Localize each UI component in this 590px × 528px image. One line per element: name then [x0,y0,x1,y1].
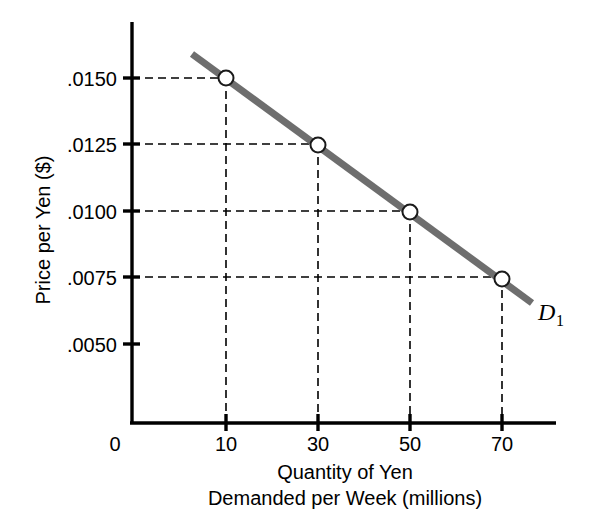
y-tick-label-0075: .0075 [67,267,117,289]
demand-curve-figure: .0150 .0125 .0100 .0075 .0050 0 10 30 50… [0,0,590,528]
y-tick-label-0150: .0150 [67,68,117,90]
data-point-4[interactable] [495,272,510,287]
data-point-3[interactable] [403,205,418,220]
x-origin-label: 0 [109,433,120,455]
data-point-1[interactable] [219,71,234,86]
chart-canvas: .0150 .0125 .0100 .0075 .0050 0 10 30 50… [0,0,590,528]
x-tick-label-50: 50 [399,433,421,455]
x-tick-label-70: 70 [491,433,513,455]
y-axis-title: Price per Yen ($) [32,156,54,305]
x-tick-label-30: 30 [307,433,329,455]
x-axis-title-line-2: Demanded per Week (millions) [208,487,482,509]
x-axis-title-line-1: Quantity of Yen [277,461,413,483]
y-tick-label-0100: .0100 [67,201,117,223]
x-tick-label-10: 10 [215,433,237,455]
y-tick-label-0050: .0050 [67,334,117,356]
curve-label-letter: D [537,299,555,325]
data-point-2[interactable] [311,138,326,153]
y-tick-label-0125: .0125 [67,134,117,156]
curve-label-subscript: 1 [556,312,564,329]
